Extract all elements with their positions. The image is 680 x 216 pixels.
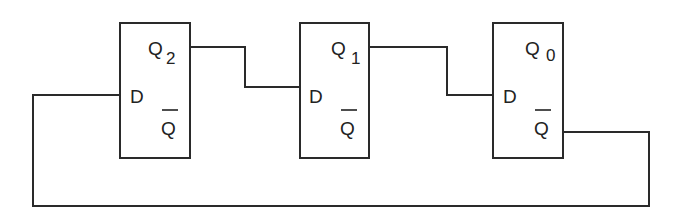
- ff1-d-label: D: [309, 86, 323, 107]
- ff1-q-label: Q: [331, 38, 346, 59]
- ff1-qbar-label: Q: [340, 118, 355, 139]
- wire-q2-to-d1: [190, 47, 300, 87]
- ff0-d-label: D: [503, 86, 517, 107]
- ff2-qbar-label: Q: [161, 118, 176, 139]
- ff0-q-label: Q: [525, 38, 540, 59]
- wire-q1-to-d0: [369, 47, 493, 95]
- flip-flop-1-labels: Q 1 D Q: [309, 38, 360, 139]
- ff2-d-label: D: [130, 86, 144, 107]
- ff2-q-label: Q: [148, 38, 163, 59]
- wire-q0bar-feedback-to-d2: [33, 95, 649, 206]
- flip-flop-2-labels: Q 2 D Q: [130, 38, 178, 139]
- ff0-q-subscript: 0: [546, 46, 555, 65]
- ff2-q-subscript: 2: [166, 49, 175, 68]
- flip-flop-ring-diagram: Q 2 D Q Q 1 D Q Q 0 D Q: [0, 0, 680, 216]
- ff0-qbar-label: Q: [534, 118, 549, 139]
- flip-flop-0-labels: Q 0 D Q: [503, 38, 555, 139]
- ff1-q-subscript: 1: [351, 49, 360, 68]
